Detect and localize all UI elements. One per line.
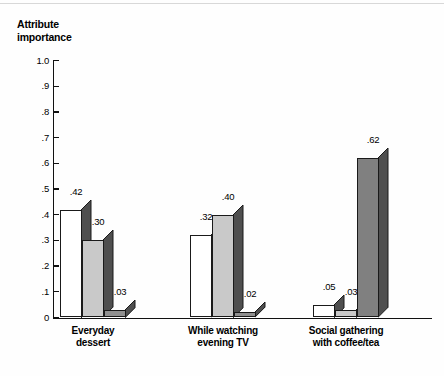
bar	[234, 312, 256, 317]
bar-side-face	[125, 300, 137, 320]
bar	[335, 310, 357, 318]
bar	[190, 235, 212, 317]
bar	[212, 215, 234, 318]
bar	[313, 305, 335, 318]
bar-side-face	[233, 205, 245, 320]
plot-area: 1.0.9.8.7.6.5.4.3.2.10 .42.30.03.32.40.0…	[0, 0, 444, 376]
bar-side-face	[378, 148, 390, 319]
category-label: Social gathering with coffee/tea	[286, 325, 406, 349]
category-label: Everyday dessert	[33, 325, 153, 349]
bars-layer: .42.30.03.32.40.02.05.03.62	[0, 0, 444, 376]
bar	[82, 240, 104, 317]
bar-value-label: .03	[98, 287, 142, 297]
bar-value-label: .30	[76, 217, 120, 227]
bar-value-label: .62	[351, 135, 395, 145]
bar-value-label: .40	[206, 192, 250, 202]
category-label: While watching evening TV	[163, 325, 283, 349]
bar-value-label: .02	[228, 289, 272, 299]
bar	[104, 310, 126, 318]
bar-value-label: .42	[54, 187, 98, 197]
chart-page: Attribute importance 1.0.9.8.7.6.5.4.3.2…	[0, 0, 444, 376]
bar-side-face	[103, 230, 115, 319]
bar	[357, 158, 379, 317]
bar-side-face	[255, 302, 267, 319]
